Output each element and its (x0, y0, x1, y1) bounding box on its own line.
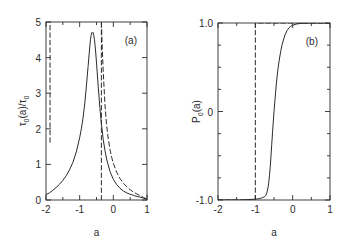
panel-label: (a) (125, 35, 137, 46)
series-solid (46, 32, 147, 199)
y-tick-label: -1.0 (196, 195, 214, 206)
y-axis-title: P0(a) (191, 100, 204, 123)
x-axis-title: a (271, 227, 277, 238)
y-tick-label: 0 (35, 195, 41, 206)
y-tick-label: 1.0 (199, 18, 213, 29)
panel-a: -2-101012345(a)aτ0(a)/τ0 (17, 17, 150, 238)
y-tick-label: 2 (35, 124, 41, 135)
x-tick-label: 1 (144, 204, 150, 215)
x-tick-label: -2 (214, 204, 223, 215)
x-tick-label: 0 (111, 204, 117, 215)
y-axis-title-text: τ0(a)/τ0 (17, 96, 30, 127)
panel-label: (b) (306, 36, 318, 47)
y-tick-label: 5 (35, 17, 41, 28)
y-axis-title: τ0(a)/τ0 (17, 96, 30, 127)
x-tick-label: 0 (290, 204, 296, 215)
y-axis-title-text: P0(a) (191, 100, 204, 123)
panel-b: -2-101-1.001.0(b)aP0(a) (191, 18, 333, 238)
x-tick-label: -2 (42, 204, 51, 215)
x-tick-label: -1 (251, 204, 260, 215)
x-axis-title: a (94, 227, 100, 238)
series-solid (218, 23, 330, 200)
y-tick-label: 1 (35, 159, 41, 170)
figure-container: -2-101012345(a)aτ0(a)/τ0-2-101-1.001.0(b… (0, 0, 351, 252)
y-tick-label: 3 (35, 88, 41, 99)
plot-frame (46, 22, 147, 200)
x-tick-label: -1 (75, 204, 84, 215)
x-tick-label: 1 (327, 204, 333, 215)
y-tick-label: 4 (35, 53, 41, 64)
y-tick-label: 0 (207, 107, 213, 118)
figure-svg: -2-101012345(a)aτ0(a)/τ0-2-101-1.001.0(b… (0, 0, 351, 252)
series-dashed-divergent-branch (101, 22, 147, 199)
